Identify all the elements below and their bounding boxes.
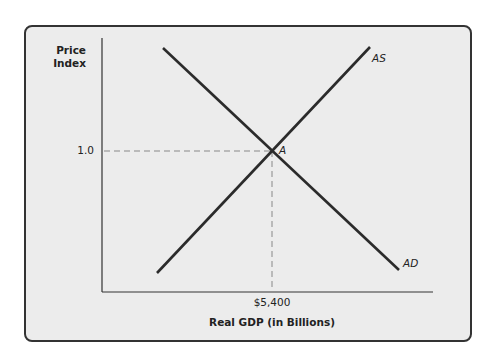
x-axis-label: Real GDP (in Billions) (172, 316, 372, 328)
as-label: AS (372, 52, 386, 64)
y-axis-label: Price Index (40, 44, 86, 70)
y-axis-label-line1: Price (40, 44, 86, 57)
equilibrium-point-label: A (279, 144, 286, 156)
as-curve (157, 47, 370, 273)
y-tick-label: 1.0 (60, 144, 94, 156)
y-axis-label-line2: Index (40, 57, 86, 70)
x-tick-label: $5,400 (232, 296, 312, 308)
ad-label: AD (403, 257, 418, 269)
ad-curve (163, 48, 399, 270)
